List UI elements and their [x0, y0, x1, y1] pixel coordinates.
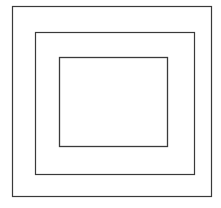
canvas-background — [0, 0, 221, 208]
figure-canvas: Concentric Rectangles — [0, 0, 221, 208]
concentric-rectangles-figure: Concentric Rectangles — [0, 0, 221, 208]
